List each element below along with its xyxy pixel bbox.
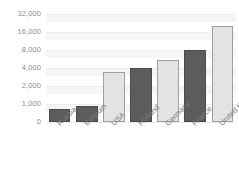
- y-axis: 32,00016,0008,0004,0002,0001,0000: [0, 0, 44, 180]
- y-axis-tick-label: 32,000: [17, 10, 41, 18]
- bar-chart: 32,00016,0008,0004,0002,0001,0000 Russia…: [0, 0, 239, 180]
- y-axis-tick-label: 0: [37, 118, 41, 126]
- y-axis-tick-label: 1,000: [22, 100, 41, 108]
- y-axis-tick-label: 16,000: [17, 28, 41, 36]
- x-axis: RussiaBelgiumUSAHollandGermanyFranceUnit…: [46, 122, 236, 180]
- y-axis-tick-label: 8,000: [22, 46, 41, 54]
- y-axis-tick-label: 2,000: [22, 82, 41, 90]
- y-axis-tick-label: 4,000: [22, 64, 41, 72]
